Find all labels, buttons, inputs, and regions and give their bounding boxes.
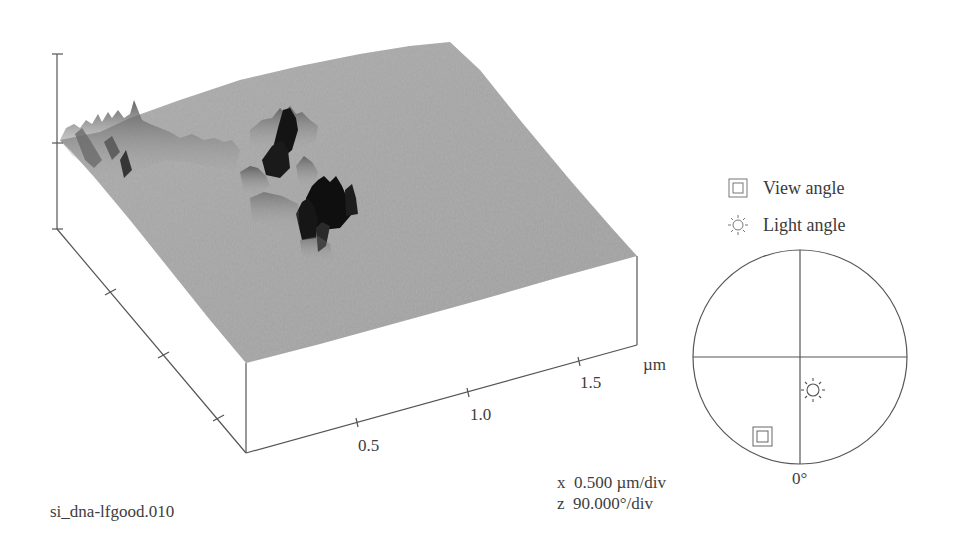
- z-scale-label: z 90.000°/div: [557, 494, 653, 514]
- view-angle-label: View angle: [763, 178, 844, 199]
- view-angle-icon: [727, 177, 749, 199]
- view-angle-marker-icon[interactable]: [753, 427, 772, 446]
- legend-light-angle: Light angle: [727, 214, 845, 236]
- sun-icon: [727, 214, 749, 236]
- light-angle-label: Light angle: [763, 215, 845, 236]
- z-scale-axis: z: [557, 494, 565, 513]
- axis-unit-label: µm: [643, 355, 666, 375]
- x-scale-value: 0.500 µm/div: [574, 473, 666, 492]
- x-scale-axis: x: [557, 473, 566, 492]
- x-scale-label: x 0.500 µm/div: [557, 473, 666, 493]
- filename-label: si_dna-lfgood.010: [50, 502, 174, 522]
- x-tick-1-5: 1.5: [580, 373, 601, 393]
- x-tick-1-0: 1.0: [470, 405, 491, 425]
- legend-view-angle: View angle: [727, 177, 844, 199]
- z-scale-value: 90.000°/div: [573, 494, 653, 513]
- afm-3d-plot: [0, 0, 953, 547]
- orientation-dial: [693, 250, 907, 464]
- light-angle-marker-icon[interactable]: [801, 378, 825, 402]
- x-tick-0-5: 0.5: [358, 436, 379, 456]
- dial-zero-label: 0°: [792, 469, 807, 489]
